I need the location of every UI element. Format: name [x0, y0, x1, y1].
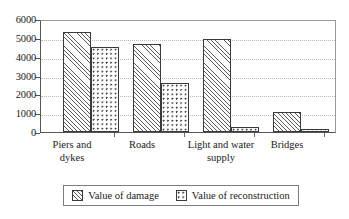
bar-light-and-water-supply-reconstruction — [231, 127, 259, 133]
bar-light-and-water-supply-damage — [203, 39, 231, 132]
bar-roads-damage — [133, 44, 161, 132]
legend-item-value-of-damage: Value of damage — [72, 190, 159, 201]
x-axis-category-piers-and-dykes: Piers and dykes — [32, 139, 112, 164]
bar-roads-reconstruction — [161, 83, 189, 132]
bar-chart: 6000 5000 4000 3000 2000 1000 0 Piers an… — [0, 0, 349, 219]
x-axis-tick-2 — [184, 133, 185, 137]
legend-item-value-of-reconstruction: Value of reconstruction — [176, 190, 290, 201]
y-axis-label-0: 0 — [0, 128, 36, 138]
diagonal-hatch-swatch-icon — [72, 190, 83, 201]
x-axis-category-roads: Roads — [104, 139, 180, 152]
bar-bridges-reconstruction — [301, 129, 329, 132]
plot-area — [40, 20, 336, 133]
y-axis-label-1000: 1000 — [0, 109, 36, 119]
x-axis-tick-3 — [254, 133, 255, 137]
y-axis-label-4000: 4000 — [0, 53, 36, 63]
dotted-swatch-icon — [176, 190, 187, 201]
y-axis-label-3000: 3000 — [0, 72, 36, 82]
bar-piers-and-dykes-damage — [63, 32, 91, 132]
y-axis-label-2000: 2000 — [0, 90, 36, 100]
legend-label-value-of-reconstruction: Value of reconstruction — [192, 190, 290, 201]
bar-bridges-damage — [273, 112, 301, 132]
legend-label-value-of-damage: Value of damage — [88, 190, 159, 201]
bar-piers-and-dykes-reconstruction — [91, 47, 119, 132]
x-axis-category-bridges: Bridges — [249, 139, 325, 152]
x-axis-tick-1 — [114, 133, 115, 137]
x-axis-tick-4 — [324, 133, 325, 137]
y-axis-label-5000: 5000 — [0, 34, 36, 44]
y-axis-label-6000: 6000 — [0, 15, 36, 25]
chart-legend: Value of damage Value of reconstruction — [63, 185, 299, 206]
